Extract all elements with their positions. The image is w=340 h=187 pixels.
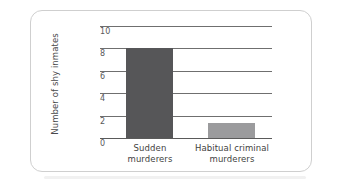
bar-sudden-murderers: [126, 48, 173, 138]
category-label-habitual-criminal-murderers: Habitual criminal murderers: [186, 143, 278, 164]
y-tick-label-2: 2: [100, 117, 114, 126]
bar-chart-plot-area: 10 8 6 4 2 0 Number of shy inmates Sudde…: [0, 0, 340, 187]
category-label-line1: Sudden: [112, 143, 188, 154]
gridline-10: [100, 26, 272, 27]
y-tick-label-10: 10: [100, 27, 114, 36]
y-tick-label-4: 4: [100, 94, 114, 103]
category-label-sudden-murderers: Sudden murderers: [112, 143, 188, 164]
y-tick-label-6: 6: [100, 72, 114, 81]
y-axis-title: Number of shy inmates: [50, 0, 64, 28]
x-axis-baseline: [100, 138, 272, 139]
category-label-line2: murderers: [186, 154, 278, 165]
y-axis-title-text: Number of shy inmates: [50, 28, 60, 140]
category-label-line1: Habitual criminal: [186, 143, 278, 154]
y-tick-label-8: 8: [100, 49, 114, 58]
figure-root: 10 8 6 4 2 0 Number of shy inmates Sudde…: [0, 0, 340, 187]
category-label-line2: murderers: [112, 154, 188, 165]
bar-habitual-criminal-murderers: [208, 123, 255, 138]
